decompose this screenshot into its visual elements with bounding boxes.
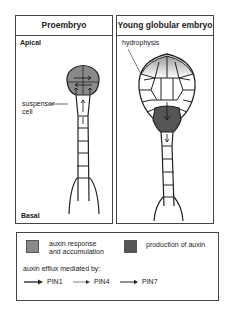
proembryo-drawing [16,16,114,225]
pin4-arrow-icon [73,280,90,284]
globular-embryo-panel: Young globular embryo hydrophysis [116,15,214,224]
efflux-arrows [17,233,220,302]
proembryo-panel: Proembryo Apical Basal suspensor cell [15,15,113,224]
legend: auxin response and accumulation producti… [16,232,219,301]
pin4-label: PIN4 [94,278,110,286]
globular-embryo-drawing [117,16,215,225]
pin1-arrow-icon [24,280,43,285]
pin7-label: PIN7 [142,278,158,286]
pin7-arrow-icon [120,280,138,284]
pin1-label: PIN1 [47,278,63,286]
